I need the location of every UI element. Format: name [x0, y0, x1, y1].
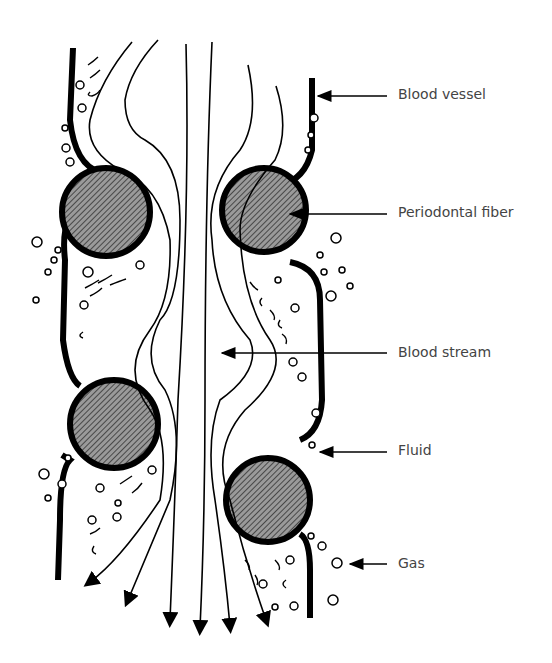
fiber-bottom-right	[226, 458, 310, 542]
label-blood-stream: Blood stream	[398, 344, 491, 360]
label-periodontal-fiber: Periodontal fiber	[398, 204, 514, 220]
fiber-bottom-left	[70, 380, 158, 468]
label-fluid: Fluid	[398, 442, 432, 458]
label-gas: Gas	[398, 555, 425, 571]
fiber-top-right	[222, 168, 306, 252]
fiber-top-left	[62, 168, 150, 256]
label-blood-vessel: Blood vessel	[398, 86, 486, 102]
